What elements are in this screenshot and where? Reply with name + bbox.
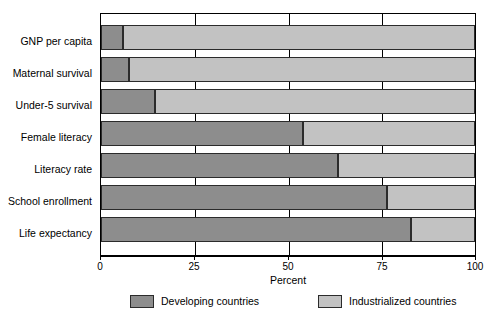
bar-segment — [155, 89, 475, 114]
y-axis-label-female-literacy: Female literacy — [21, 121, 92, 153]
x-ticklabel-100: 100 — [455, 261, 493, 272]
bar-segment — [101, 57, 129, 82]
bar-segment — [101, 185, 387, 210]
bar-segment — [101, 121, 303, 146]
legend-swatch-developing-countries — [130, 295, 154, 308]
x-tick-0 — [100, 256, 101, 260]
bar-series-group — [101, 14, 475, 255]
y-axis-label-literacy-rate: Literacy rate — [34, 153, 92, 185]
bar-row-maternal-survival — [101, 57, 475, 82]
bar-segment — [123, 25, 475, 50]
y-axis-label-under-5-survival: Under-5 survival — [16, 89, 92, 121]
bar-segment — [101, 25, 123, 50]
x-tick-75 — [382, 256, 383, 260]
x-ticklabel-25: 25 — [174, 261, 214, 272]
x-ticklabel-75: 75 — [362, 261, 402, 272]
x-tick-100 — [475, 256, 476, 260]
legend-item-industrialized-countries: Industrialized countries — [318, 292, 456, 310]
legend-swatch-industrialized-countries — [318, 295, 342, 308]
legend-label-industrialized-countries: Industrialized countries — [349, 295, 456, 307]
x-tick-50 — [288, 256, 289, 260]
chart-legend: Developing countries Industrialized coun… — [100, 292, 476, 312]
y-axis-label-maternal-survival: Maternal survival — [13, 57, 92, 89]
bar-segment — [411, 217, 475, 242]
bar-segment — [303, 121, 475, 146]
y-axis-label-school-enrollment: School enrollment — [8, 185, 92, 217]
y-axis-label-life-expectancy: Life expectancy — [19, 217, 92, 249]
bar-row-life-expectancy — [101, 217, 475, 242]
bar-row-gnp-per-capita — [101, 25, 475, 50]
bar-row-school-enrollment — [101, 185, 475, 210]
legend-label-developing-countries: Developing countries — [161, 295, 259, 307]
bar-row-literacy-rate — [101, 153, 475, 178]
bar-segment — [387, 185, 475, 210]
bar-segment — [129, 57, 475, 82]
x-axis-title: Percent — [100, 274, 476, 286]
y-axis-label-gnp-per-capita: GNP per capita — [20, 25, 92, 57]
x-ticklabel-50: 50 — [268, 261, 308, 272]
bar-row-under-5-survival — [101, 89, 475, 114]
x-ticklabel-0: 0 — [80, 261, 120, 272]
bar-segment — [338, 153, 475, 178]
y-axis-category-labels: GNP per capita Maternal survival Under-5… — [0, 25, 96, 249]
plot-area — [100, 13, 476, 256]
legend-item-developing-countries: Developing countries — [130, 292, 259, 310]
stacked-bar-chart: GNP per capita Maternal survival Under-5… — [0, 0, 493, 320]
x-tick-25 — [194, 256, 195, 260]
bar-row-female-literacy — [101, 121, 475, 146]
bar-segment — [101, 217, 411, 242]
bar-segment — [101, 153, 338, 178]
bar-segment — [101, 89, 155, 114]
